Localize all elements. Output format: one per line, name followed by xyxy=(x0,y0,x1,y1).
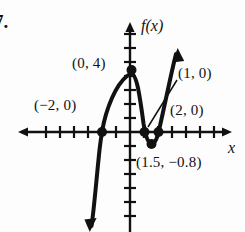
point-x-intercept-mid xyxy=(140,127,150,137)
point-local-minimum xyxy=(147,139,157,149)
curve-arrow-down xyxy=(84,218,96,232)
y-axis-label: f(x) xyxy=(141,18,163,34)
point-y-intercept xyxy=(127,65,137,75)
point-x-intercept-left xyxy=(97,127,107,137)
function-curve xyxy=(92,54,177,226)
y-axis-arrow-up xyxy=(125,22,134,32)
annotation-y-intercept: (0, 4) xyxy=(72,56,106,71)
annotation-local-minimum: (1.5, −0.8) xyxy=(136,155,202,170)
coordinate-plane xyxy=(0,0,245,232)
graph-figure: 7. xyxy=(0,0,245,232)
annotation-x-intercept-mid: (1, 0) xyxy=(178,66,212,81)
x-axis-label: x xyxy=(228,140,235,156)
point-x-intercept-right xyxy=(154,127,164,137)
annotation-x-intercept-left: (−2, 0) xyxy=(34,98,76,113)
x-axis-arrow-left xyxy=(18,127,28,136)
annotation-x-intercept-right: (2, 0) xyxy=(170,103,204,118)
x-axis-arrow-right xyxy=(222,127,232,136)
